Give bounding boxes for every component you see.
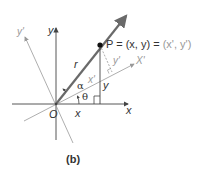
point-p-equation-main: P = (x, y) = xyxy=(106,38,163,50)
rotation-diagram: y y' x X' O r α θ x' y' x y P = (x, y) =… xyxy=(0,0,197,172)
figure-caption: (b) xyxy=(66,153,80,165)
y-axis-label: y xyxy=(47,24,55,36)
right-angle-marker xyxy=(94,96,100,104)
theta-label: θ xyxy=(82,91,88,102)
origin-label: O xyxy=(49,108,58,120)
point-p xyxy=(97,42,102,47)
x-axis-label: x xyxy=(125,104,132,116)
x-prime-segment-label: x' xyxy=(87,74,96,85)
x-prime-axis-label: X' xyxy=(135,55,146,66)
point-p-equation-rotated: (x', y') xyxy=(163,38,192,50)
origin-dot xyxy=(55,103,58,106)
theta-arc xyxy=(78,96,80,104)
x-segment-label: x xyxy=(74,107,81,119)
radius-label: r xyxy=(74,58,79,70)
y-prime-axis-label: y' xyxy=(16,26,25,37)
y-prime-segment-label: y' xyxy=(112,55,121,66)
alpha-label: α xyxy=(77,80,84,91)
y-segment-label: y xyxy=(102,79,110,91)
point-p-equation: P = (x, y) = (x', y') xyxy=(106,38,191,50)
